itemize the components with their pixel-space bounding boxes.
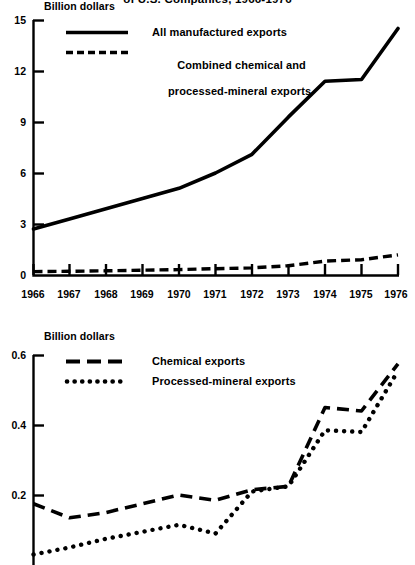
- x-tick-1974: 1974: [313, 288, 336, 300]
- legend-label-all-manufactured-exports: All manufactured exports: [152, 26, 287, 39]
- dotted-key-icon: [66, 375, 152, 388]
- x-tick-1975: 1975: [349, 288, 372, 300]
- series-combined-chemical-processed-mineral: [34, 255, 399, 272]
- y-axis-title-bottom: Billion dollars: [44, 330, 115, 342]
- x-tick-1967: 1967: [57, 288, 80, 300]
- legend-item-chemical-exports: Chemical exports: [66, 355, 296, 368]
- y-tick-9: 9: [0, 116, 26, 128]
- dashed-line-key-icon: [66, 46, 152, 59]
- x-tick-1976: 1976: [384, 288, 407, 300]
- x-tick-1966: 1966: [21, 288, 44, 300]
- legend-item-all-manufactured-exports: All manufactured exports: [66, 26, 311, 39]
- figure-page: of U.S. Companies, 1966-1976 Billion dol…: [0, 0, 415, 565]
- x-tick-1970: 1970: [167, 288, 190, 300]
- long-dash-key-icon: [66, 355, 152, 368]
- y-tick-0-6: 0.6: [0, 349, 26, 361]
- legend-item-combined-chemical-processed-mineral: Combined chemical and processed-mineral …: [66, 46, 311, 124]
- legend-top: All manufactured exports Combined chemic…: [66, 26, 311, 131]
- x-tick-1969: 1969: [130, 288, 153, 300]
- legend-label-combined-chemical-processed-mineral: Combined chemical and processed-mineral …: [152, 46, 311, 124]
- x-tick-1968: 1968: [94, 288, 117, 300]
- y-tick-3: 3: [0, 218, 26, 230]
- y-tick-6: 6: [0, 167, 26, 179]
- y-tick-0-2: 0.2: [0, 489, 26, 501]
- y-tick-15: 15: [0, 14, 26, 26]
- y-tick-0: 0: [0, 269, 26, 281]
- solid-line-key-icon: [66, 26, 152, 39]
- y-tick-12: 12: [0, 65, 26, 77]
- y-axis-title-top: Billion dollars: [44, 0, 115, 12]
- x-tick-1971: 1971: [203, 288, 226, 300]
- legend-label-chemical-exports: Chemical exports: [152, 355, 245, 368]
- legend-label-processed-mineral-exports: Processed-mineral exports: [152, 375, 296, 388]
- y-tick-0-4: 0.4: [0, 419, 26, 431]
- x-tick-1972: 1972: [240, 288, 263, 300]
- series-processed-mineral-exports: [34, 371, 399, 555]
- legend-bottom: Chemical exports Processed-mineral expor…: [66, 355, 296, 395]
- legend-label-line2: processed-mineral exports: [152, 85, 311, 98]
- legend-item-processed-mineral-exports: Processed-mineral exports: [66, 375, 296, 388]
- legend-label-line1: Combined chemical and: [177, 59, 306, 71]
- x-tick-1973: 1973: [276, 288, 299, 300]
